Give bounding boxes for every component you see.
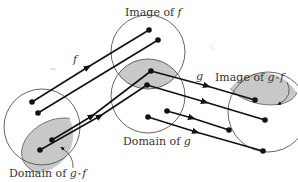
- shaded-image-of-g-compose-f: [223, 57, 298, 111]
- domain-of-g-label: Domain of g: [123, 136, 191, 147]
- diagram-canvas: [0, 0, 298, 182]
- g-label: g: [196, 71, 203, 82]
- domain-of-g-compose-f-label: Domain of g∘f: [9, 168, 86, 179]
- image-of-f-label: Image of f: [125, 7, 182, 18]
- image-of-g-compose-f-label: Image of g∘f: [215, 72, 284, 83]
- composition-diagram: Image of f f g Image of g∘f Domain of g …: [0, 0, 298, 182]
- f-label: f: [73, 54, 77, 65]
